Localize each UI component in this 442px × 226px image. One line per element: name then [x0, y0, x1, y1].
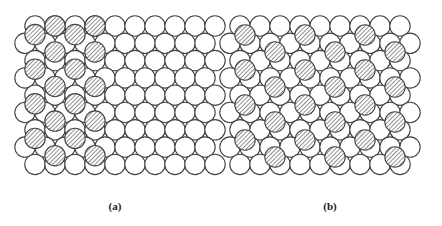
- adsorbate-atom: [325, 147, 345, 167]
- substrate-atom: [25, 154, 45, 174]
- adsorbate-atom: [385, 112, 405, 132]
- adsorbate-atom: [295, 60, 315, 80]
- adsorbate-atom: [235, 95, 255, 115]
- substrate-atom: [205, 154, 225, 174]
- adsorbate-atom: [355, 95, 375, 115]
- substrate-atom: [145, 154, 165, 174]
- adsorbate-atom: [45, 16, 65, 36]
- adsorbate-atom: [265, 112, 285, 132]
- adsorbate-atom: [355, 130, 375, 150]
- adsorbate-atom: [385, 147, 405, 167]
- adsorbate-atom: [65, 94, 85, 114]
- substrate-atom: [165, 154, 185, 174]
- adsorbate-atom: [295, 25, 315, 45]
- adsorbate-atom: [85, 42, 105, 62]
- adsorbate-atom: [295, 130, 315, 150]
- caption-a: (a): [95, 200, 135, 212]
- adsorbate-atom: [265, 42, 285, 62]
- caption-b: (b): [310, 200, 350, 212]
- substrate-atom: [65, 154, 85, 174]
- adsorbate-atom: [235, 130, 255, 150]
- adsorbate-atom: [85, 16, 105, 36]
- adsorbate-atom: [265, 147, 285, 167]
- adsorbate-atom: [235, 25, 255, 45]
- adsorbate-atom: [85, 76, 105, 96]
- substrate-atom: [185, 154, 205, 174]
- adsorbate-atom: [355, 60, 375, 80]
- substrate-atom: [125, 154, 145, 174]
- adsorbate-atom: [65, 59, 85, 79]
- adsorbate-atom: [235, 60, 255, 80]
- lattice-diagram: [0, 0, 442, 226]
- adsorbate-atom: [325, 77, 345, 97]
- adsorbate-atom: [325, 42, 345, 62]
- adsorbate-atom: [45, 146, 65, 166]
- adsorbate-atom: [355, 25, 375, 45]
- adsorbate-atom: [45, 111, 65, 131]
- adsorbate-atom: [85, 111, 105, 131]
- adsorbate-atom: [385, 42, 405, 62]
- adsorbate-atom: [265, 77, 285, 97]
- adsorbate-atom: [295, 95, 315, 115]
- substrate-atom: [290, 154, 310, 174]
- adsorbate-atom: [85, 146, 105, 166]
- substrate-atom: [230, 154, 250, 174]
- adsorbate-atom: [45, 76, 65, 96]
- adsorbate-atom: [25, 59, 45, 79]
- adsorbate-atom: [25, 24, 45, 44]
- panel-b-ordered-overlayer: [220, 16, 420, 175]
- adsorbate-atom: [325, 112, 345, 132]
- adsorbate-atom: [385, 77, 405, 97]
- panel-a-stepped-overlayer: [15, 16, 225, 175]
- adsorbate-atom: [25, 94, 45, 114]
- adsorbate-atom: [65, 24, 85, 44]
- adsorbate-atom: [65, 128, 85, 148]
- adsorbate-atom: [45, 42, 65, 62]
- substrate-atom: [105, 154, 125, 174]
- adsorbate-atom: [25, 128, 45, 148]
- substrate-atom: [350, 154, 370, 174]
